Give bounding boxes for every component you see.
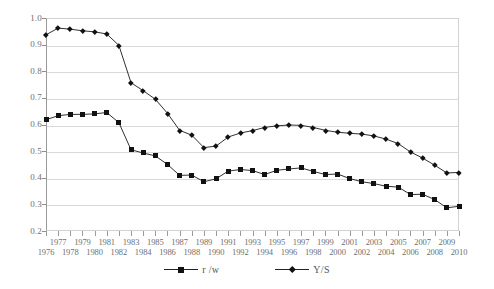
legend-item-rw[interactable]: r /w: [164, 264, 219, 275]
diamond-marker-icon: [275, 265, 309, 275]
chart-legend: r /w Y/S: [0, 264, 494, 275]
legend-label-ys: Y/S: [313, 264, 329, 275]
series-lines: [0, 0, 494, 289]
series-line-ys: [46, 28, 459, 173]
series-line-rw: [46, 113, 459, 208]
legend-label-rw: r /w: [202, 264, 219, 275]
square-marker-icon: [164, 265, 198, 275]
line-chart: 1.00.90.80.70.60.50.40.30.2 197619771978…: [0, 0, 494, 289]
legend-item-ys[interactable]: Y/S: [275, 264, 329, 275]
